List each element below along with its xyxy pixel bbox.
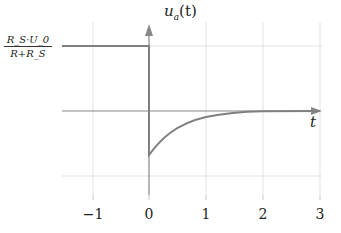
x-tick-label: 0: [145, 206, 154, 222]
chart-title: ua(t): [164, 2, 197, 22]
title-main: u: [164, 2, 174, 20]
x-tick-label: −1: [83, 206, 104, 222]
title-arg: (t): [179, 2, 197, 20]
y-level-label: R_S·U_0 R+R_S: [4, 34, 52, 59]
x-tick-label: 1: [202, 206, 211, 222]
y-level-denominator: R+R_S: [4, 47, 52, 59]
x-axis-label: t: [310, 113, 316, 131]
y-axis-arrow-icon: [145, 24, 153, 36]
x-tick-label: 3: [316, 206, 325, 222]
signal-curve: [62, 46, 320, 155]
x-tick-label: 2: [259, 206, 268, 222]
tick-marks: [93, 195, 320, 200]
grid: [62, 22, 322, 195]
y-level-numerator: R_S·U_0: [4, 34, 52, 47]
